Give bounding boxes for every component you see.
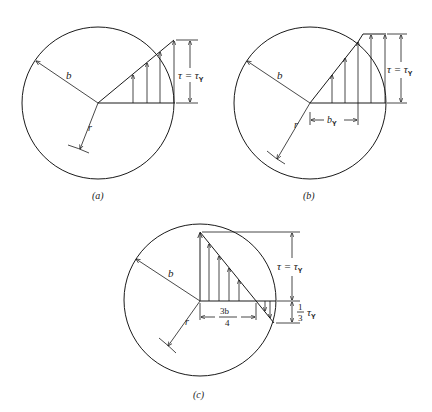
panel-c: b r τ = τY 1 3 τY bbox=[124, 224, 316, 401]
residual-stress-label: τY bbox=[307, 306, 316, 320]
r-arrow bbox=[168, 301, 200, 346]
r-label: r bbox=[185, 316, 189, 327]
stress-line bbox=[98, 40, 174, 103]
rotation-arc bbox=[267, 151, 285, 164]
panel-caption: (a) bbox=[92, 190, 104, 202]
position-num: 3b bbox=[220, 306, 230, 316]
radius-b-label: b bbox=[168, 267, 174, 279]
stress-label: τ = τY bbox=[387, 63, 413, 77]
radius-b-arrow bbox=[36, 61, 98, 103]
radius-b-arrow bbox=[247, 61, 310, 103]
radius-b-label: b bbox=[66, 69, 72, 81]
radius-b-label: b bbox=[277, 69, 283, 81]
stress-label: τ = τY bbox=[178, 69, 204, 83]
panel-a: b r τ = τY (a) bbox=[22, 27, 204, 202]
rotation-arc bbox=[159, 338, 176, 353]
r-label: r bbox=[294, 119, 298, 130]
panel-caption: (b) bbox=[303, 190, 315, 202]
stress-label: τ = τY bbox=[277, 260, 303, 274]
residual-num: 1 bbox=[298, 302, 303, 312]
stress-line bbox=[200, 232, 274, 323]
residual-den: 3 bbox=[298, 313, 303, 323]
position-den: 4 bbox=[225, 318, 230, 328]
radius-b-arrow bbox=[136, 259, 200, 301]
r-arrow bbox=[277, 103, 310, 159]
elastic-core-label: bY bbox=[327, 114, 337, 127]
torsion-stress-diagram: b r τ = τY (a) b r bbox=[0, 0, 432, 412]
stress-line bbox=[310, 34, 386, 103]
r-label: r bbox=[88, 122, 92, 133]
panel-b: b r τ = τY bY (b) bbox=[234, 27, 413, 202]
rotation-arc bbox=[68, 145, 89, 153]
panel-caption: (c) bbox=[193, 389, 205, 401]
